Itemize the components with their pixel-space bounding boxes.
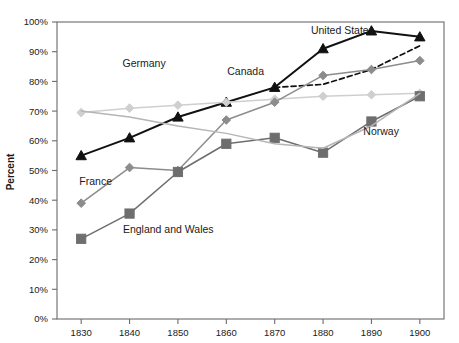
y-tick-label: 30% xyxy=(29,224,49,235)
y-tick-label: 100% xyxy=(24,16,49,27)
x-tick-label: 1860 xyxy=(216,327,237,338)
data-point-marker xyxy=(222,139,231,148)
series-label-canada: Canada xyxy=(227,65,264,77)
y-tick-label: 0% xyxy=(34,313,48,324)
x-tick-label: 1870 xyxy=(264,327,285,338)
y-tick-label: 90% xyxy=(29,46,49,57)
series-label-united-states: United States xyxy=(311,24,374,36)
data-point-marker xyxy=(125,209,134,218)
x-tick-label: 1890 xyxy=(361,327,382,338)
y-tick-label: 10% xyxy=(29,284,49,295)
x-tick-label: 1900 xyxy=(409,327,430,338)
series-label-england-and-wales: England and Wales xyxy=(123,223,214,235)
x-tick-label: 1850 xyxy=(167,327,188,338)
y-tick-label: 80% xyxy=(29,76,49,87)
y-tick-label: 60% xyxy=(29,135,49,146)
series-label-norway: Norway xyxy=(363,125,399,137)
data-point-marker xyxy=(77,234,86,243)
series-label-france: France xyxy=(79,175,112,187)
y-tick-label: 20% xyxy=(29,254,49,265)
chart-figure: 0%10%20%30%40%50%60%70%80%90%100% 183018… xyxy=(0,0,459,343)
y-axis-title: Percent xyxy=(5,153,16,190)
y-tick-label: 70% xyxy=(29,106,49,117)
data-point-marker xyxy=(173,167,182,176)
y-tick-label: 40% xyxy=(29,195,49,206)
data-point-marker xyxy=(318,148,327,157)
x-tick-label: 1880 xyxy=(312,327,333,338)
x-tick-label: 1830 xyxy=(71,327,92,338)
y-tick-label: 50% xyxy=(29,165,49,176)
y-axis: 0%10%20%30%40%50%60%70%80%90%100% xyxy=(24,16,57,324)
line-chart: 0%10%20%30%40%50%60%70%80%90%100% 183018… xyxy=(0,0,459,343)
data-point-marker xyxy=(270,133,279,142)
x-tick-label: 1840 xyxy=(119,327,140,338)
x-axis: 18301840185018601870188018901900 xyxy=(71,319,431,338)
series-label-germany: Germany xyxy=(122,57,166,69)
